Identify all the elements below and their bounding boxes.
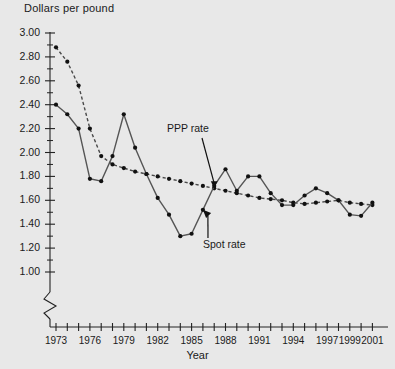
y-tick-label: 2.20 xyxy=(6,122,40,134)
y-tick-label: 1.20 xyxy=(6,241,40,253)
data-point xyxy=(156,196,160,200)
data-point xyxy=(178,234,182,238)
data-point xyxy=(348,201,352,205)
data-point xyxy=(303,193,307,197)
y-tick-label: 2.00 xyxy=(6,146,40,158)
y-tick-label: 1.00 xyxy=(6,265,40,277)
data-point xyxy=(167,177,171,181)
y-tick-label: 2.80 xyxy=(6,50,40,62)
data-point xyxy=(77,127,81,131)
y-tick-label: 1.80 xyxy=(6,169,40,181)
y-tick-label: 1.60 xyxy=(6,193,40,205)
chart-container: Dollars per pound Year 1.001.201.401.601… xyxy=(0,0,395,369)
x-tick-label: 2001 xyxy=(355,335,389,346)
data-point xyxy=(359,214,363,218)
data-point xyxy=(370,201,374,205)
y-tick-label: 2.40 xyxy=(6,98,40,110)
data-point xyxy=(122,166,126,170)
data-point xyxy=(235,189,239,193)
data-point xyxy=(178,179,182,183)
ppp-rate-label: PPP rate xyxy=(167,122,209,134)
data-point xyxy=(156,174,160,178)
y-tick-label: 2.60 xyxy=(6,74,40,86)
data-point xyxy=(291,203,295,207)
data-point xyxy=(223,167,227,171)
data-point xyxy=(190,232,194,236)
data-point xyxy=(246,193,250,197)
x-tick-label: 1973 xyxy=(39,335,73,346)
data-point xyxy=(269,191,273,195)
x-tick-label: 1979 xyxy=(107,335,141,346)
data-point xyxy=(325,191,329,195)
data-point xyxy=(144,172,148,176)
data-point xyxy=(314,186,318,190)
line-chart-plot xyxy=(0,0,395,369)
x-tick-label: 1976 xyxy=(73,335,107,346)
data-point xyxy=(88,177,92,181)
data-point xyxy=(54,45,58,49)
spot-rate-label: Spot rate xyxy=(203,238,246,250)
data-point xyxy=(77,83,81,87)
data-point xyxy=(99,154,103,158)
series-line-spot-rate xyxy=(56,105,372,236)
x-tick-label: 1985 xyxy=(175,335,209,346)
data-point xyxy=(280,198,284,202)
data-point xyxy=(336,198,340,202)
data-point xyxy=(54,103,58,107)
data-point xyxy=(246,174,250,178)
data-point xyxy=(65,60,69,64)
data-point xyxy=(201,184,205,188)
data-point xyxy=(257,174,261,178)
data-point xyxy=(99,179,103,183)
x-tick-label: 1994 xyxy=(276,335,310,346)
data-point xyxy=(122,112,126,116)
data-point xyxy=(65,112,69,116)
data-point xyxy=(314,201,318,205)
data-point xyxy=(303,202,307,206)
data-point xyxy=(280,203,284,207)
data-point xyxy=(133,170,137,174)
data-point xyxy=(167,213,171,217)
data-point xyxy=(133,146,137,150)
y-tick-label: 1.40 xyxy=(6,217,40,229)
x-tick-label: 1991 xyxy=(242,335,276,346)
data-point xyxy=(223,189,227,193)
data-point xyxy=(110,162,114,166)
data-point xyxy=(257,196,261,200)
data-point xyxy=(269,197,273,201)
data-point xyxy=(88,127,92,131)
data-point xyxy=(110,154,114,158)
data-point xyxy=(190,181,194,185)
x-tick-label: 1982 xyxy=(141,335,175,346)
data-point xyxy=(348,213,352,217)
y-tick-label: 3.00 xyxy=(6,26,40,38)
x-tick-label: 1988 xyxy=(209,335,243,346)
data-point xyxy=(325,199,329,203)
data-point xyxy=(359,202,363,206)
